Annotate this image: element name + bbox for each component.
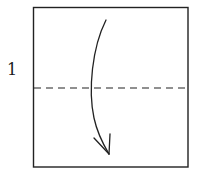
origami-diagram [0,0,208,172]
paper-square [34,8,189,168]
